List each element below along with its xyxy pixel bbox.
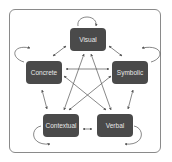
self-loop-visual (78, 17, 96, 26)
arrow-visual-concrete (53, 46, 66, 56)
node-symbolic: Symbolic (112, 61, 148, 84)
node-visual: Visual (70, 28, 106, 51)
node-label: Verbal (106, 122, 124, 129)
arrow-visual-verbal (91, 54, 111, 110)
arrow-symbolic-verbal (128, 90, 133, 109)
node-concrete: Concrete (26, 61, 62, 84)
node-label: Symbolic (117, 69, 143, 76)
node-label: Concrete (31, 69, 57, 76)
node-verbal: Verbal (97, 114, 133, 137)
node-contextual: Contextual (43, 114, 79, 137)
arrow-visual-symbolic (109, 46, 122, 56)
arrow-concrete-contextual (42, 90, 47, 109)
self-loop-symbolic (142, 47, 160, 62)
node-label: Contextual (45, 122, 76, 129)
node-label: Visual (79, 36, 97, 43)
arrow-visual-contextual (64, 54, 84, 110)
self-loop-concrete (15, 47, 30, 62)
